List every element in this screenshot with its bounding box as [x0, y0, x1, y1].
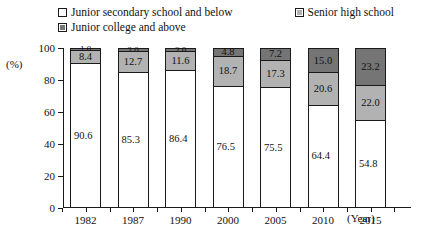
x-axis-unit: (Year): [347, 212, 375, 224]
bar-2010[interactable]: 15.020.664.4: [308, 48, 339, 208]
bar-segment-1982-mid: 8.4: [70, 50, 101, 63]
legend-label-junior-college: Junior college and above: [71, 21, 186, 33]
y-tick-80: [58, 80, 63, 81]
bar-segment-2010-mid: 20.6: [308, 72, 339, 105]
x-tick-separator: [205, 208, 206, 212]
bar-value-label: 8.4: [79, 52, 92, 62]
bar-segment-1987-mid: 12.7: [118, 51, 149, 71]
bar-2000[interactable]: 4.818.776.5: [213, 48, 244, 208]
chart-legend: Junior secondary school and below Senior…: [58, 6, 408, 36]
legend-item-junior-college: Junior college and above: [58, 21, 186, 33]
legend-swatch-dark-icon: [58, 23, 67, 32]
legend-label-senior-high: Senior high school: [308, 6, 394, 18]
x-tick-separator: [62, 208, 63, 212]
bar-segment-2010-dark: 15.0: [308, 48, 339, 72]
x-tick-2005: [276, 208, 277, 212]
x-tick-separator: [110, 208, 111, 212]
x-tick-1987: [133, 208, 134, 212]
bar-value-label: 7.2: [269, 49, 282, 59]
x-tick-separator: [252, 208, 253, 212]
x-tick-1990: [181, 208, 182, 212]
x-axis-label-2000: 2000: [208, 215, 248, 226]
y-tick-label-80: 80: [44, 75, 55, 86]
x-axis-label-1990: 1990: [161, 215, 201, 226]
bar-segment-2010-white: 64.4: [308, 105, 339, 208]
legend-item-senior-high: Senior high school: [295, 6, 394, 18]
y-axis-line: [63, 48, 64, 208]
bar-segment-1987-white: 85.3: [118, 72, 149, 208]
bar-value-label: 76.5: [217, 142, 235, 152]
x-axis-label-1982: 1982: [66, 215, 106, 226]
bar-value-label: 20.6: [314, 84, 332, 94]
bar-value-label: 11.6: [172, 56, 190, 66]
bar-value-label: 90.6: [74, 131, 92, 141]
bar-segment-2000-mid: 18.7: [213, 56, 244, 86]
y-tick-label-40: 40: [44, 139, 55, 150]
bar-segment-2015-white: 54.8: [355, 120, 386, 208]
bar-value-label: 86.4: [169, 134, 187, 144]
bar-value-label: 54.8: [359, 159, 377, 169]
bar-segment-2005-dark: 7.2: [260, 48, 291, 60]
x-axis-label-1987: 1987: [113, 215, 153, 226]
legend-swatch-white-icon: [58, 8, 67, 17]
y-tick-label-20: 20: [44, 171, 55, 182]
x-tick-1982: [86, 208, 87, 212]
bar-2015[interactable]: 23.222.054.8: [355, 48, 386, 208]
bar-value-label: 22.0: [361, 98, 379, 108]
bar-value-label: 75.5: [264, 143, 282, 153]
bar-value-label: 15.0: [314, 56, 332, 66]
x-tick-2010: [323, 208, 324, 212]
bar-segment-2000-white: 76.5: [213, 86, 244, 208]
bar-segment-1982-white: 90.6: [70, 63, 101, 208]
x-tick-2000: [228, 208, 229, 212]
y-tick-label-0: 0: [50, 203, 56, 214]
x-axis-label-2005: 2005: [256, 215, 296, 226]
x-axis-label-2010: 2010: [303, 215, 343, 226]
y-tick-label-100: 100: [39, 43, 56, 54]
bar-value-label: 17.3: [266, 69, 284, 79]
x-tick-separator: [157, 208, 158, 212]
bar-segment-1990-mid: 11.6: [165, 51, 196, 70]
bar-1982[interactable]: 1.08.490.6: [70, 48, 101, 208]
plot-area: 020406080100 1.08.490.619822.012.785.319…: [63, 48, 403, 208]
y-tick-40: [58, 144, 63, 145]
bar-segment-2005-mid: 17.3: [260, 60, 291, 88]
bar-1990[interactable]: 2.011.686.4: [165, 48, 196, 208]
legend-row-2: Junior college and above: [58, 21, 408, 36]
bar-value-label: 85.3: [122, 135, 140, 145]
y-tick-20: [58, 176, 63, 177]
stacked-bar-chart: Junior secondary school and below Senior…: [0, 0, 424, 242]
bar-1987[interactable]: 2.012.785.3: [118, 48, 149, 208]
bar-value-label: 12.7: [124, 57, 142, 67]
bar-value-label: 64.4: [312, 151, 330, 161]
bar-segment-1990-white: 86.4: [165, 70, 196, 208]
bar-2005[interactable]: 7.217.375.5: [260, 48, 291, 208]
y-tick-label-60: 60: [44, 107, 55, 118]
legend-row-1: Junior secondary school and below Senior…: [58, 6, 408, 21]
y-tick-60: [58, 112, 63, 113]
bar-value-label: 23.2: [361, 62, 379, 72]
bar-segment-2000-dark: 4.8: [213, 48, 244, 56]
legend-swatch-mid-icon: [295, 8, 304, 17]
bar-segment-2015-mid: 22.0: [355, 85, 386, 120]
bar-segment-2015-dark: 23.2: [355, 48, 386, 85]
x-tick-separator: [394, 208, 395, 212]
y-axis-unit: (%): [6, 58, 23, 70]
y-tick-100: [58, 48, 63, 49]
bar-segment-2005-white: 75.5: [260, 87, 291, 208]
x-tick-separator: [300, 208, 301, 212]
legend-label-junior-secondary: Junior secondary school and below: [71, 6, 233, 18]
bar-value-label: 18.7: [219, 66, 237, 76]
legend-item-junior-secondary: Junior secondary school and below: [58, 6, 233, 18]
